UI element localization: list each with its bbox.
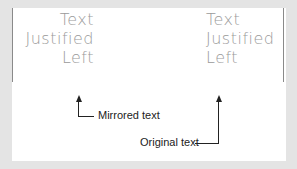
original-line-1: Text <box>206 10 286 29</box>
mirrored-arrow-horizontal <box>78 116 94 117</box>
mirrored-line-3: Left <box>14 48 94 67</box>
mirrored-text-block: Text Justified Left <box>14 10 94 67</box>
mirrored-text-label: Mirrored text <box>98 109 160 121</box>
original-text-block: Text Justified Left <box>206 10 286 67</box>
original-arrow-vertical <box>218 101 219 144</box>
original-line-3: Left <box>206 48 286 67</box>
mirrored-line-2: Justified <box>14 29 94 48</box>
mirrored-arrow-vertical <box>78 101 79 117</box>
original-line-2: Justified <box>206 29 286 48</box>
mirror-boundary-line <box>12 8 13 82</box>
mirrored-arrowhead-icon <box>76 95 82 102</box>
original-text-label: Original text <box>140 136 199 148</box>
original-arrowhead-icon <box>216 95 222 102</box>
mirrored-line-1: Text <box>14 10 94 29</box>
